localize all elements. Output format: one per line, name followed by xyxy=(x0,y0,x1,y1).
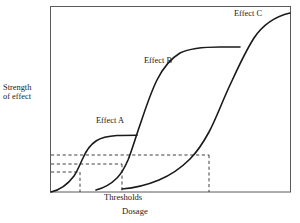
thresholds-label: Thresholds xyxy=(104,193,142,202)
y-axis-label-line2: of effect xyxy=(3,92,31,101)
curve-effect-c xyxy=(122,13,290,189)
dose-response-figure: Strengthof effect Thresholds Dosage Effe… xyxy=(0,0,300,223)
plot-area xyxy=(0,0,300,223)
curve-label-effect-c: Effect C xyxy=(234,9,262,18)
y-axis-label: Strengthof effect xyxy=(3,83,49,101)
x-axis-label: Dosage xyxy=(122,207,148,216)
y-axis-label-line1: Strength xyxy=(3,83,31,92)
curve-label-effect-a: Effect A xyxy=(96,116,124,125)
curve-label-effect-b: Effect B xyxy=(144,56,172,65)
